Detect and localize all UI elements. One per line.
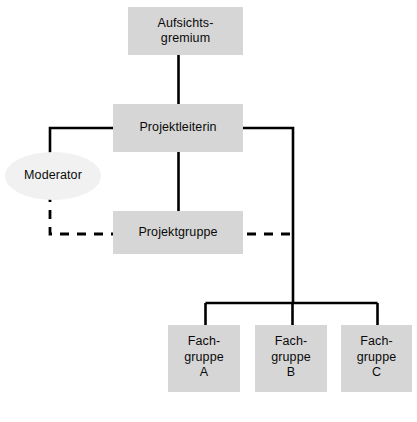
connector-projektleiterin-fachgruppen-trunk xyxy=(243,128,293,303)
node-fachgruppe-c: Fach- gruppe C xyxy=(341,325,412,392)
node-projektleiterin: Projektleiterin xyxy=(113,104,243,152)
node-fachgruppe-a: Fach- gruppe A xyxy=(168,325,240,392)
node-moderator: Moderator xyxy=(5,152,101,200)
node-label-projektgruppe: Projektgruppe xyxy=(138,225,217,241)
node-aufsichtsgremium: Aufsichts- gremium xyxy=(128,7,243,55)
node-label-fachgruppe-a: Fach- gruppe A xyxy=(184,334,224,381)
node-projektgruppe: Projektgruppe xyxy=(113,211,243,254)
node-label-moderator: Moderator xyxy=(24,168,82,184)
node-label-fachgruppe-c: Fach- gruppe C xyxy=(357,334,397,381)
node-fachgruppe-b: Fach- gruppe B xyxy=(255,325,327,392)
node-label-aufsichtsgremium: Aufsichts- gremium xyxy=(158,16,214,47)
org-chart-diagram: Aufsichts- gremium Projektleiterin Moder… xyxy=(0,0,417,422)
node-label-projektleiterin: Projektleiterin xyxy=(139,120,216,136)
node-label-fachgruppe-b: Fach- gruppe B xyxy=(271,334,311,381)
